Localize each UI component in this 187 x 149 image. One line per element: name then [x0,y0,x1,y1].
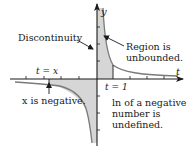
y-axis-label: y [100,6,107,17]
t-equals-1-label: t = 1 [105,82,128,92]
shaded-region-negative [49,79,97,143]
ln-undefined-label-line1: ln of a negative [112,97,187,108]
discontinuity-label: Discontinuity [18,32,83,43]
region-unbounded-label-line1: Region is [126,41,171,52]
reciprocal-function-diagram: y t Discontinuity Region is unbounded. t… [0,0,187,149]
shaded-region-unbounded [97,8,113,79]
ln-undefined-label-line3: undefined. [112,119,163,130]
t-axis-label: t [176,66,181,77]
ln-undefined-label-line2: number is [112,108,161,119]
region-unbounded-label-line2: unbounded. [126,52,183,63]
x-negative-label: x is negative. [22,95,86,106]
discontinuity-arrow [77,40,93,49]
t-equals-x-label: t = x [36,66,58,76]
